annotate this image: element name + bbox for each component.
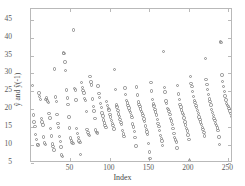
data-point [55,113,58,116]
x-tick-label: 100 [97,164,121,172]
data-point [216,129,219,132]
data-point [71,142,74,145]
data-point [186,133,189,136]
data-point [168,113,171,116]
data-point [42,135,45,138]
data-point [217,135,220,138]
data-point [204,78,207,81]
data-point [36,143,39,146]
data-point [161,144,164,147]
data-point [156,118,159,121]
data-point [130,116,133,119]
data-point [219,41,222,44]
data-point [31,84,34,87]
data-point [222,85,225,88]
data-point [202,131,205,134]
y-tick-label: 15 [0,122,12,130]
data-point [223,94,226,97]
data-point [82,91,85,94]
data-point [188,159,191,161]
data-point [113,68,116,71]
data-point [221,80,224,83]
data-point [172,132,175,135]
data-point [150,89,153,92]
data-point [120,123,123,126]
data-point [47,112,50,115]
data-point [158,129,161,132]
data-point [50,134,53,137]
data-point [84,99,87,102]
data-point [157,125,160,128]
data-point [107,108,110,111]
data-point [66,103,69,106]
x-tick-label: 150 [136,164,160,172]
data-point [163,86,166,89]
data-point [209,103,212,106]
x-tick-label: 50 [57,164,81,172]
data-point [123,86,126,89]
data-point [175,140,178,143]
data-point [182,116,185,119]
data-point [147,142,150,145]
data-point [92,109,95,112]
data-point [149,81,152,84]
data-point [64,69,67,72]
data-point [230,115,231,118]
data-point [59,140,62,143]
data-point [77,136,80,139]
data-point [175,146,178,149]
data-point [135,85,138,88]
data-point [205,83,208,86]
data-point [204,57,207,60]
data-point [47,101,50,104]
data-point [92,105,95,108]
data-point [59,145,62,148]
data-point [178,98,181,101]
data-point [61,155,64,158]
data-point [75,127,78,130]
data-point [32,120,35,123]
data-point [68,126,71,129]
data-point [49,127,52,130]
data-point [165,102,168,105]
data-point [146,133,149,136]
data-points-layer [31,9,231,161]
data-point [35,138,38,141]
y-tick-label: 40 [0,33,12,41]
data-point [162,50,165,53]
data-point [62,52,65,55]
data-point [176,84,179,87]
data-point [65,88,68,91]
data-point [48,116,51,119]
data-point [66,96,69,99]
data-point [207,93,210,96]
data-point [136,93,139,96]
data-point [33,125,36,128]
y-tick-label: 10 [0,140,12,148]
x-tick-label: 200 [176,164,200,172]
data-point [80,81,83,84]
data-point [76,132,79,135]
data-point [104,126,107,129]
data-point [160,139,163,142]
data-point [191,90,194,93]
data-point [63,60,66,63]
data-point [171,123,174,126]
data-point [186,129,189,132]
data-point [223,90,226,93]
data-point [97,92,100,95]
data-point [163,90,166,93]
data-point [133,136,136,139]
data-point [67,115,70,118]
data-point [100,106,103,109]
data-point [56,122,59,125]
data-point [96,131,99,134]
data-point [88,75,91,78]
data-point [133,130,136,133]
data-point [52,148,55,151]
data-point [192,95,195,98]
y-tick-label: 20 [0,105,12,113]
data-point [79,153,82,156]
data-point [155,113,158,116]
data-point [112,127,115,130]
